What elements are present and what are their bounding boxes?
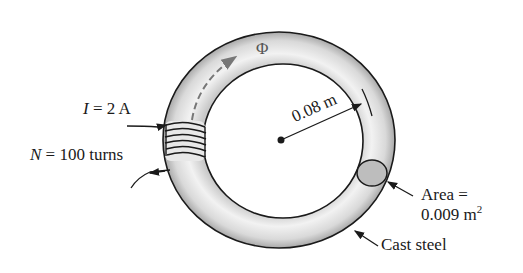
material-pointer-icon bbox=[355, 231, 378, 246]
area-label-line2: 0.009 m2 bbox=[421, 204, 482, 223]
area-value: 0.009 m bbox=[421, 205, 477, 224]
turns-label: N = 100 turns bbox=[30, 146, 123, 163]
material-label: Cast steel bbox=[381, 236, 447, 253]
current-in-arrow-icon bbox=[127, 125, 166, 127]
coil-winding bbox=[165, 121, 206, 161]
current-symbol: I bbox=[83, 99, 89, 118]
flux-label: Φ bbox=[256, 40, 268, 57]
area-exponent: 2 bbox=[477, 203, 483, 215]
cross-section-area bbox=[357, 160, 387, 186]
turns-symbol: N bbox=[30, 145, 41, 164]
area-pointer-icon bbox=[388, 182, 413, 196]
current-label: I = 2 A bbox=[83, 100, 131, 117]
turns-value: = 100 turns bbox=[46, 145, 124, 164]
area-label-line1: Area = bbox=[421, 186, 468, 203]
current-value: = 2 A bbox=[93, 99, 131, 118]
